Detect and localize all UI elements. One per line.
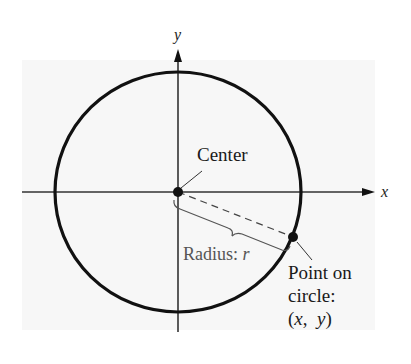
y-axis-label: y — [172, 26, 182, 44]
point-label-line1: Point on — [288, 262, 352, 283]
center-label: Center — [197, 144, 248, 165]
x-axis-label: x — [380, 183, 388, 200]
radius-label-prefix: Radius: — [183, 244, 243, 264]
y-axis-arrow-icon — [174, 49, 182, 62]
point-coordinates: (x, y) — [288, 308, 332, 330]
circle-diagram: x y Center Radius: r Point on circle: (x… — [0, 0, 411, 364]
point-on-circle — [288, 232, 298, 242]
coord-comma: , — [303, 308, 317, 329]
coord-y: y — [315, 308, 326, 329]
radius-label: Radius: r — [183, 244, 251, 264]
radius-variable: r — [243, 244, 251, 264]
center-point — [173, 187, 183, 197]
paren-close: ) — [325, 308, 331, 330]
point-label-line2: circle: — [288, 285, 335, 306]
